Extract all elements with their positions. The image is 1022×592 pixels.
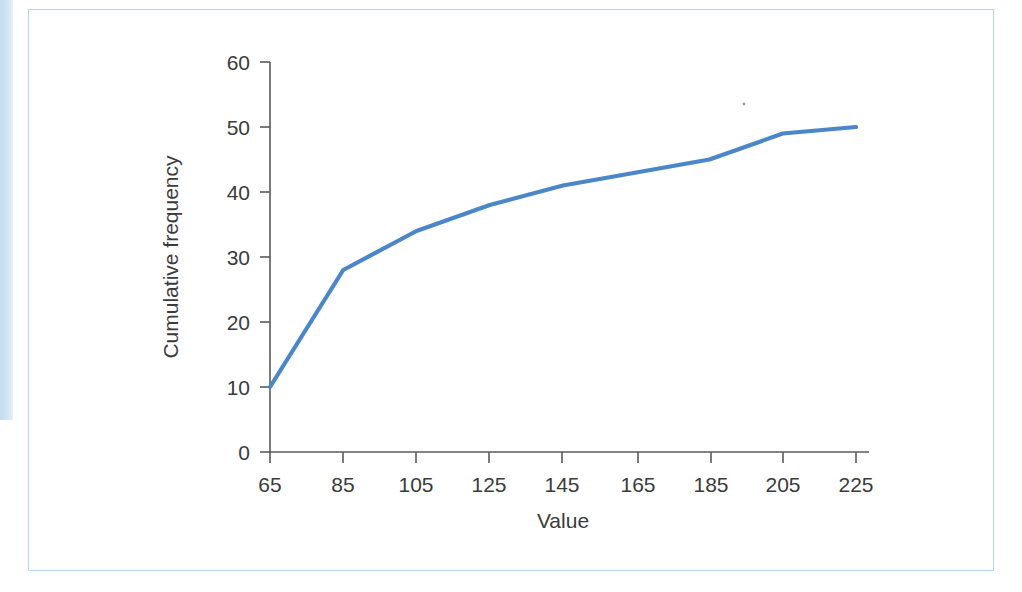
x-tick-label-205: 205 (765, 473, 800, 496)
x-tick-label-85: 85 (331, 473, 354, 496)
y-axis-title: Cumulative frequency (159, 155, 182, 359)
x-axis-title: Value (537, 509, 589, 532)
y-tick-label-10: 10 (227, 376, 250, 399)
y-tick-label-20: 20 (227, 311, 250, 334)
y-tick-label-0: 0 (238, 441, 250, 464)
chart-svg: 0 10 20 30 40 50 60 65 85 105 125 145 16… (0, 0, 1022, 592)
y-tick-label-60: 60 (227, 51, 250, 74)
x-tick-label-125: 125 (471, 473, 506, 496)
y-tick-label-50: 50 (227, 116, 250, 139)
x-tick-label-65: 65 (258, 473, 281, 496)
x-tick-label-225: 225 (838, 473, 873, 496)
y-axis-ticks: 0 10 20 30 40 50 60 (227, 51, 270, 464)
scan-speck (743, 103, 746, 106)
cumulative-frequency-chart: 0 10 20 30 40 50 60 65 85 105 125 145 16… (0, 0, 1022, 592)
y-tick-label-30: 30 (227, 246, 250, 269)
y-tick-label-40: 40 (227, 181, 250, 204)
x-tick-label-185: 185 (693, 473, 728, 496)
x-tick-label-145: 145 (544, 473, 579, 496)
x-tick-label-165: 165 (620, 473, 655, 496)
x-tick-label-105: 105 (398, 473, 433, 496)
cumulative-frequency-line (270, 127, 856, 387)
x-axis-ticks: 65 85 105 125 145 165 185 205 225 (258, 452, 873, 496)
